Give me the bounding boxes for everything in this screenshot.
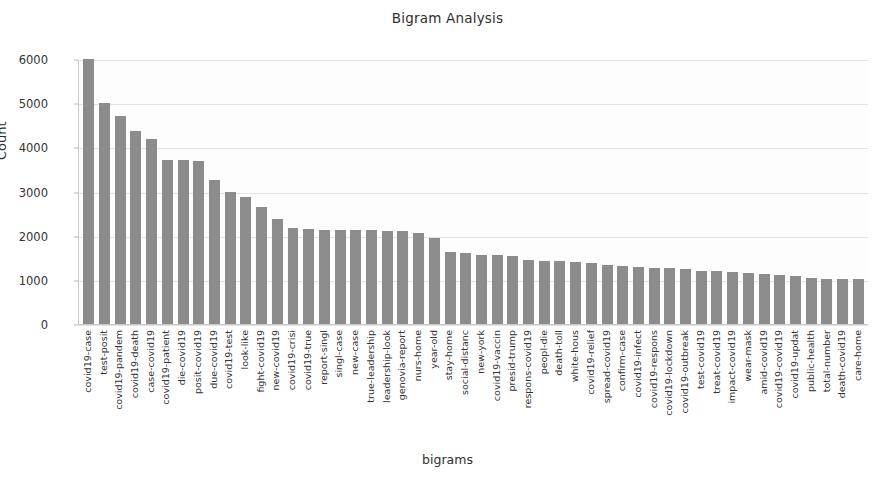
x-tick-label: covid19-infect bbox=[633, 330, 643, 398]
bar bbox=[146, 139, 157, 325]
x-tick-label: covid19-relief bbox=[586, 330, 596, 395]
bar-slot bbox=[97, 60, 113, 324]
bar-slot bbox=[599, 60, 615, 324]
bar-slot bbox=[489, 60, 505, 324]
bar-slot bbox=[395, 60, 411, 324]
x-tick-label: die-covid19 bbox=[177, 330, 187, 385]
x-tick-slot: new-covid19 bbox=[269, 326, 285, 446]
bar-slot bbox=[835, 60, 851, 324]
bar-slot bbox=[584, 60, 600, 324]
bar-slot bbox=[442, 60, 458, 324]
bar-slot bbox=[144, 60, 160, 324]
bar bbox=[853, 279, 864, 324]
bar bbox=[99, 103, 110, 324]
bar-slot bbox=[269, 60, 285, 324]
x-tick-label: new-covid19 bbox=[272, 330, 282, 390]
x-tick-slot: white-hous bbox=[567, 326, 583, 446]
bar bbox=[774, 275, 785, 324]
bar bbox=[272, 219, 283, 324]
x-tick-label: case-covid19 bbox=[146, 330, 156, 393]
x-tick-label: public-health bbox=[806, 330, 816, 392]
bar bbox=[83, 59, 94, 324]
bar-slot bbox=[160, 60, 176, 324]
bar-slot bbox=[175, 60, 191, 324]
x-tick-label: due-covid19 bbox=[209, 330, 219, 389]
bar-slot bbox=[379, 60, 395, 324]
x-tick-label: respons-covid19 bbox=[523, 330, 533, 408]
x-tick-label: amid-covid19 bbox=[759, 330, 769, 395]
bar-slot bbox=[725, 60, 741, 324]
x-tick-label: treat-covid19 bbox=[712, 330, 722, 394]
x-tick-label: total-number bbox=[822, 330, 832, 392]
bar bbox=[115, 116, 126, 324]
x-tick-slot: respons-covid19 bbox=[520, 326, 536, 446]
bar bbox=[711, 271, 722, 324]
x-tick-slot: covid19-crisi bbox=[284, 326, 300, 446]
bar bbox=[507, 256, 518, 324]
x-tick-slot: covid19-case bbox=[80, 326, 96, 446]
bar-slot bbox=[819, 60, 835, 324]
bar-slot bbox=[568, 60, 584, 324]
bar-slot bbox=[317, 60, 333, 324]
bar-slot bbox=[191, 60, 207, 324]
bar bbox=[680, 269, 691, 324]
bar bbox=[162, 160, 173, 324]
x-tick-label: true-leadership bbox=[366, 330, 376, 403]
x-tick-slot: treat-covid19 bbox=[709, 326, 725, 446]
x-tick-slot: covid19-lockdown bbox=[662, 326, 678, 446]
bar bbox=[256, 207, 267, 324]
x-tick-slot: social-distanc bbox=[457, 326, 473, 446]
bar bbox=[335, 230, 346, 324]
x-tick-label: covid19-covid19 bbox=[775, 330, 785, 408]
bar-slot bbox=[505, 60, 521, 324]
bar-slot bbox=[285, 60, 301, 324]
x-tick-label: confirm-case bbox=[618, 330, 628, 391]
bar-slot bbox=[332, 60, 348, 324]
bar-slot bbox=[458, 60, 474, 324]
x-tick-slot: covid19-relief bbox=[583, 326, 599, 446]
bar bbox=[350, 230, 361, 324]
bar-slot bbox=[709, 60, 725, 324]
x-axis-label: bigrams bbox=[0, 452, 895, 467]
x-tick-label: singl-case bbox=[335, 330, 345, 378]
bar bbox=[445, 252, 456, 324]
x-tick-slot: covid19-updat bbox=[787, 326, 803, 446]
x-tick-label: stay-home bbox=[445, 330, 455, 380]
bar-slot bbox=[646, 60, 662, 324]
x-tick-slot: new-case bbox=[347, 326, 363, 446]
bar bbox=[225, 192, 236, 325]
x-tick-label: test-covid19 bbox=[696, 330, 706, 389]
x-tick-label: wear-mask bbox=[743, 330, 753, 382]
x-tick-label: peopl-die bbox=[539, 330, 549, 374]
x-tick-label: covid19-pandem bbox=[115, 330, 125, 410]
bar bbox=[319, 230, 330, 324]
x-tick-slot: test-covid19 bbox=[693, 326, 709, 446]
bar bbox=[617, 266, 628, 324]
x-tick-label: spread-covid19 bbox=[602, 330, 612, 403]
bar bbox=[727, 272, 738, 324]
bar-slot bbox=[411, 60, 427, 324]
x-tick-slot: presid-trump bbox=[504, 326, 520, 446]
bar-slot bbox=[521, 60, 537, 324]
bar bbox=[366, 230, 377, 324]
bar bbox=[476, 255, 487, 324]
bar bbox=[664, 268, 675, 324]
bar-slot bbox=[207, 60, 223, 324]
bar bbox=[288, 228, 299, 324]
bar-slot bbox=[615, 60, 631, 324]
bar bbox=[821, 279, 832, 324]
y-tick-label: 6000 bbox=[19, 53, 48, 67]
bar-slot bbox=[81, 60, 97, 324]
x-tick-label: new-york bbox=[476, 330, 486, 374]
x-tick-label: covid19-case bbox=[83, 330, 93, 393]
y-tick-label: 5000 bbox=[19, 97, 48, 111]
bar-slot bbox=[803, 60, 819, 324]
bar bbox=[209, 180, 220, 324]
x-tick-slot: covid19-outbreak bbox=[677, 326, 693, 446]
bar-slot bbox=[693, 60, 709, 324]
bar bbox=[696, 271, 707, 324]
bar bbox=[240, 197, 251, 324]
x-tick-slot: total-number bbox=[819, 326, 835, 446]
x-tick-label: fight-covid19 bbox=[256, 330, 266, 393]
bar bbox=[790, 276, 801, 324]
